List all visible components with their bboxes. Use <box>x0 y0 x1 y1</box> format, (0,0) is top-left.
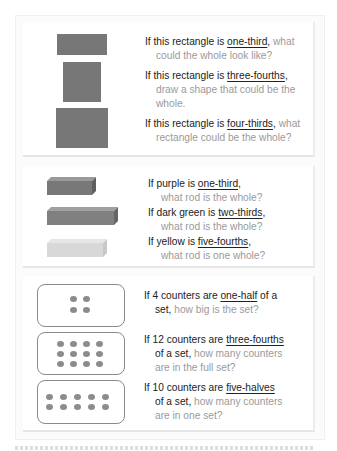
question-text: If yellow is <box>148 236 198 247</box>
question-text: of a set, <box>155 396 191 407</box>
fraction-term: three-fourths <box>226 334 284 345</box>
question-text: set, <box>155 304 171 315</box>
question-continuation: could the whole look like? <box>145 49 295 63</box>
fraction-term: three-fourths <box>227 70 285 81</box>
counter-dot <box>60 404 67 410</box>
question-text: If this rectangle is <box>145 36 227 47</box>
counter-dot <box>46 404 53 410</box>
rectangle-question-1: If this rectangle is one-third, what cou… <box>145 35 295 63</box>
yellow-rod <box>46 238 112 260</box>
counter-dot <box>70 361 77 367</box>
fraction-term: four-thirds <box>227 118 273 129</box>
counter-dot <box>57 341 64 347</box>
fraction-term: one-half <box>220 290 257 301</box>
question-text-muted: how many counters <box>191 396 282 407</box>
question-continuation: what rod is one whole? <box>148 249 265 263</box>
question-continuation: whole. <box>145 97 295 111</box>
question-text: , <box>238 178 241 189</box>
counter-dot <box>96 341 103 347</box>
counter-dot <box>88 404 95 410</box>
counter-dot <box>57 351 64 357</box>
question-text-muted: how big is the set? <box>171 304 258 315</box>
question-text: If this rectangle is <box>145 70 227 81</box>
fraction-term: one-third <box>198 178 238 189</box>
rectangle-one-third <box>57 34 107 55</box>
rod-question-2: If dark green is two-thirds, what rod is… <box>148 206 265 234</box>
counter-dot <box>96 361 103 367</box>
purple-rod <box>46 176 100 198</box>
cut-off-caption-line <box>15 446 315 450</box>
counter-dot <box>83 307 90 313</box>
counter-dot <box>57 361 64 367</box>
question-text: of a <box>257 290 277 301</box>
question-text: If dark green is <box>148 207 218 218</box>
counter-dot <box>83 341 90 347</box>
counter-dot <box>88 394 95 400</box>
counter-dot <box>102 404 109 410</box>
question-text-muted: what <box>276 118 300 129</box>
question-text-muted: how many counters <box>191 348 282 359</box>
question-text-muted: what <box>270 36 294 47</box>
counter-dot <box>70 351 77 357</box>
dark-green-rod <box>46 206 122 228</box>
question-text: , <box>262 207 265 218</box>
counter-dot <box>70 341 77 347</box>
counter-dot <box>46 394 53 400</box>
rectangle-four-thirds <box>56 108 108 148</box>
question-text: If 12 counters are <box>144 334 226 345</box>
counter-dot <box>60 394 67 400</box>
question-text: , <box>285 70 288 81</box>
question-text: of a set, <box>155 348 191 359</box>
counter-question-2: If 12 counters are three-fourths of a se… <box>144 333 284 375</box>
counter-question-1: If 4 counters are one-half of a set, how… <box>144 289 277 317</box>
rod-question-1: If purple is one-third, what rod is the … <box>148 177 262 205</box>
question-text: If this rectangle is <box>145 118 227 129</box>
question-text: If 4 counters are <box>144 290 220 301</box>
counter-dot <box>70 307 77 313</box>
counter-dot <box>74 404 81 410</box>
counter-question-3: If 10 counters are five-halves of a set,… <box>144 381 282 423</box>
question-continuation: what rod is the whole? <box>148 191 262 205</box>
counter-dot <box>74 394 81 400</box>
counter-set-12 <box>37 332 125 375</box>
counter-dot <box>83 361 90 367</box>
question-continuation: what rod is the whole? <box>148 220 265 234</box>
counter-set-10 <box>37 380 125 424</box>
counter-set-4 <box>37 284 125 327</box>
fraction-term: five-halves <box>226 382 275 393</box>
question-continuation: are in one set? <box>144 409 282 423</box>
question-text: If purple is <box>148 178 198 189</box>
counter-dot <box>102 394 109 400</box>
counter-dot <box>70 296 77 302</box>
counter-dot <box>96 351 103 357</box>
question-text: , <box>248 236 251 247</box>
counter-dot <box>83 351 90 357</box>
rectangle-question-3: If this rectangle is four-thirds, what r… <box>145 117 300 145</box>
fraction-term: one-third <box>227 36 267 47</box>
counter-dot <box>83 296 90 302</box>
rod-question-3: If yellow is five-fourths, what rod is o… <box>148 235 265 263</box>
rectangle-question-2: If this rectangle is three-fourths, draw… <box>145 69 295 111</box>
question-continuation: draw a shape that could be the <box>145 83 295 97</box>
fraction-term: five-fourths <box>198 236 248 247</box>
question-continuation: are in the full set? <box>144 361 284 375</box>
question-continuation: rectangle could be the whole? <box>145 131 300 145</box>
fraction-term: two-thirds <box>218 207 262 218</box>
question-text: If 10 counters are <box>144 382 226 393</box>
rectangle-three-fourths <box>63 62 101 102</box>
